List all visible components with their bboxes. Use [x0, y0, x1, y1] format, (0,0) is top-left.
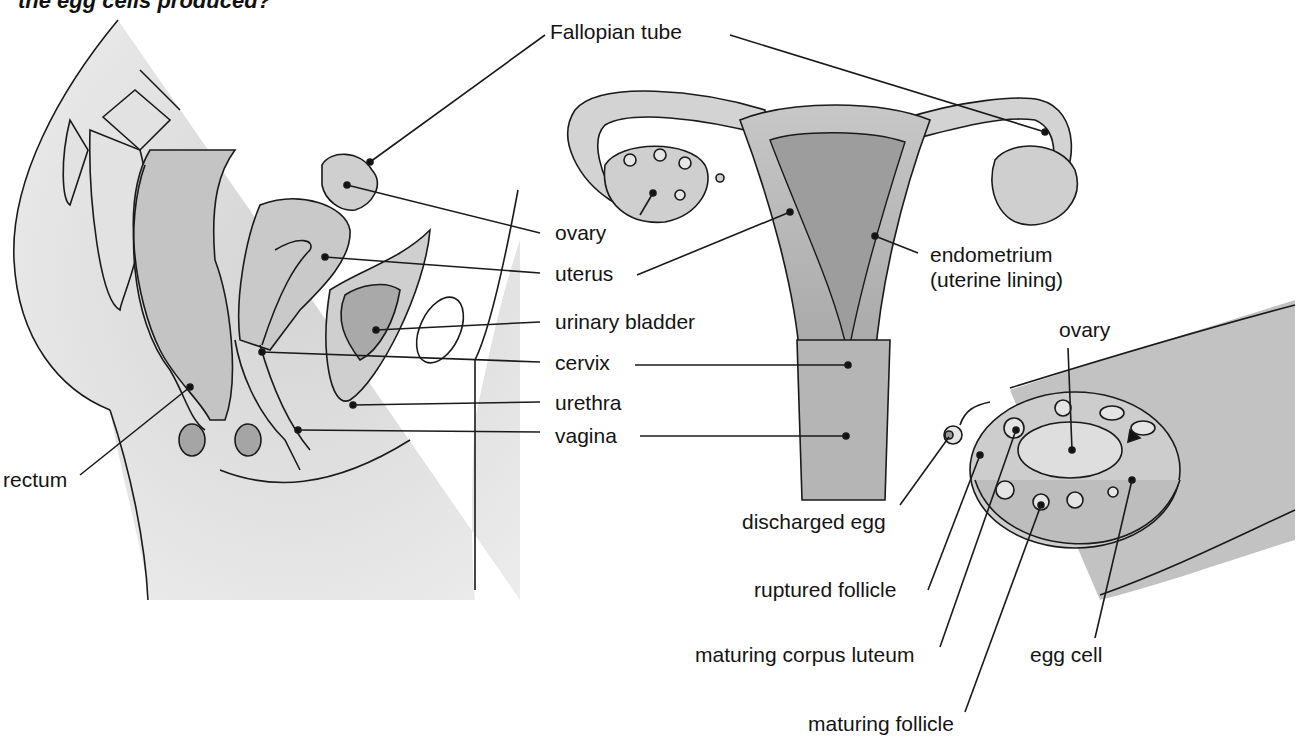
label-endometrium-sub: (uterine lining) — [930, 268, 1063, 292]
label-rectum: rectum — [3, 468, 67, 492]
anatomy-illustration — [0, 0, 1303, 739]
label-egg-cell: egg cell — [1030, 643, 1102, 667]
label-cervix: cervix — [555, 351, 610, 375]
label-maturing-corpus-luteum: maturing corpus luteum — [695, 643, 914, 667]
label-maturing-follicle: maturing follicle — [808, 712, 954, 736]
anatomy-diagram: the egg cells produced? — [0, 0, 1303, 739]
label-endometrium: endometrium — [930, 243, 1053, 267]
side-view-illustration — [14, 20, 545, 600]
label-uterus: uterus — [555, 262, 613, 286]
label-ruptured-follicle: ruptured follicle — [754, 578, 896, 602]
label-vagina: vagina — [555, 424, 617, 448]
label-fallopian-tube: Fallopian tube — [550, 20, 682, 44]
label-urinary-bladder: urinary bladder — [555, 310, 695, 334]
label-urethra: urethra — [555, 391, 622, 415]
label-ovary-side: ovary — [555, 221, 606, 245]
label-ovary-detail: ovary — [1059, 318, 1110, 342]
label-discharged-egg: discharged egg — [742, 510, 886, 534]
